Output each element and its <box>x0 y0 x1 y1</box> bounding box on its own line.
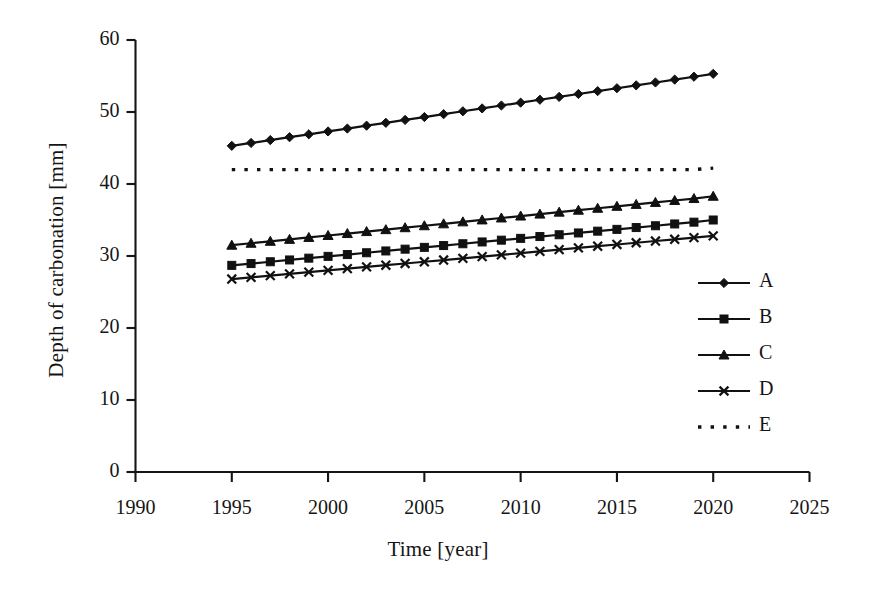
data-point-diamond <box>246 138 255 147</box>
data-point-diamond <box>497 101 506 110</box>
series-line-c <box>232 196 713 245</box>
data-point-square <box>536 233 544 241</box>
legend-label-c: C <box>759 341 772 364</box>
data-point-diamond <box>458 107 467 116</box>
y-axis-tick-label: 10 <box>50 387 120 410</box>
data-point-square <box>497 236 505 244</box>
data-point-diamond <box>593 87 602 96</box>
data-point-square <box>517 234 525 242</box>
data-point-square <box>690 218 698 226</box>
data-point-diamond <box>343 124 352 133</box>
data-point-diamond <box>285 133 294 142</box>
data-point-square <box>478 238 486 246</box>
data-point-square <box>363 249 371 257</box>
x-axis-tick-label: 2015 <box>572 496 662 519</box>
x-axis-tick-label: 2010 <box>476 496 566 519</box>
legend-label-e: E <box>759 413 771 436</box>
y-axis-tick-label: 50 <box>50 99 120 122</box>
data-point-square <box>228 261 236 269</box>
legend-label-a: A <box>759 269 773 292</box>
data-point-square <box>594 227 602 235</box>
data-point-diamond <box>612 84 621 93</box>
data-point-square <box>343 251 351 259</box>
data-point-square <box>286 256 294 264</box>
x-axis-tick-label: 2005 <box>379 496 469 519</box>
legend-glyph-a <box>698 278 750 287</box>
series-line-e <box>232 168 713 169</box>
legend-glyph-c <box>698 350 750 359</box>
data-point-square <box>305 254 313 262</box>
data-point-diamond <box>555 92 564 101</box>
x-axis-tick-label: 1995 <box>187 496 277 519</box>
data-point-square <box>709 216 717 224</box>
y-axis-tick-label: 0 <box>50 459 120 482</box>
data-point-square <box>613 225 621 233</box>
data-point-square <box>382 247 390 255</box>
data-point-diamond <box>719 278 728 287</box>
data-point-square <box>651 222 659 230</box>
data-point-diamond <box>651 78 660 87</box>
data-point-diamond <box>227 141 236 150</box>
x-axis-tick-label: 2020 <box>668 496 758 519</box>
data-point-diamond <box>670 75 679 84</box>
legend-glyph-d <box>698 387 750 396</box>
chart-series-a <box>227 69 718 150</box>
data-point-square <box>420 243 428 251</box>
data-point-square <box>671 220 679 228</box>
data-point-diamond <box>709 69 718 78</box>
x-axis-tick-label: 2025 <box>765 496 855 519</box>
legend-label-b: B <box>759 305 772 328</box>
data-point-diamond <box>516 98 525 107</box>
data-point-diamond <box>401 115 410 124</box>
x-axis-title: Time [year] <box>0 537 876 562</box>
data-point-square <box>440 242 448 250</box>
data-point-diamond <box>381 118 390 127</box>
data-point-square <box>401 245 409 253</box>
data-point-diamond <box>535 95 544 104</box>
x-axis-tick-label: 2000 <box>283 496 373 519</box>
data-point-diamond <box>689 72 698 81</box>
data-point-diamond <box>266 135 275 144</box>
chart-series-c <box>227 191 718 249</box>
x-axis-tick-label: 1990 <box>91 496 181 519</box>
data-point-square <box>324 252 332 260</box>
chart-figure: Depth of carbonation [mm] Time [year] 01… <box>0 0 876 605</box>
data-point-square <box>632 224 640 232</box>
data-point-diamond <box>323 127 332 136</box>
data-point-square <box>459 240 467 248</box>
chart-series-group <box>227 69 718 283</box>
legend-glyph-b <box>698 315 750 323</box>
data-point-square <box>574 229 582 237</box>
data-point-diamond <box>362 121 371 130</box>
y-axis-tick-label: 40 <box>50 171 120 194</box>
y-axis-tick-label: 30 <box>50 243 120 266</box>
legend-glyphs <box>698 278 750 427</box>
data-point-diamond <box>478 104 487 113</box>
data-point-diamond <box>574 89 583 98</box>
legend-label-d: D <box>759 377 773 400</box>
data-point-square <box>555 231 563 239</box>
chart-series-e <box>232 168 713 169</box>
data-point-square <box>266 258 274 266</box>
y-axis-tick-label: 20 <box>50 315 120 338</box>
data-point-diamond <box>632 81 641 90</box>
data-point-diamond <box>304 130 313 139</box>
series-line-a <box>232 74 713 146</box>
data-point-diamond <box>439 110 448 119</box>
y-axis-tick-label: 60 <box>50 27 120 50</box>
data-point-diamond <box>420 112 429 121</box>
data-point-square <box>720 315 728 323</box>
data-point-square <box>247 260 255 268</box>
